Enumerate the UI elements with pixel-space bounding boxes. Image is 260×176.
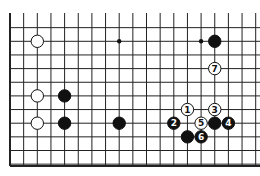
move-number: 5 bbox=[198, 118, 204, 128]
white-stone bbox=[31, 90, 43, 102]
hoshi-point bbox=[117, 39, 121, 43]
white-stone bbox=[31, 35, 43, 47]
move-number: 6 bbox=[198, 132, 204, 142]
move-number: 2 bbox=[171, 118, 177, 128]
hoshi-point bbox=[199, 39, 203, 43]
black-stone bbox=[209, 117, 221, 129]
move-number: 3 bbox=[212, 105, 218, 115]
move-number: 4 bbox=[225, 118, 231, 128]
move-number: 1 bbox=[184, 105, 190, 115]
black-stone bbox=[181, 131, 193, 143]
black-stone bbox=[58, 117, 70, 129]
white-stone bbox=[31, 117, 43, 129]
black-stone bbox=[58, 90, 70, 102]
go-board: 7123456 bbox=[0, 0, 260, 176]
move-number: 7 bbox=[212, 64, 218, 74]
black-stone bbox=[209, 35, 221, 47]
black-stone bbox=[113, 117, 125, 129]
